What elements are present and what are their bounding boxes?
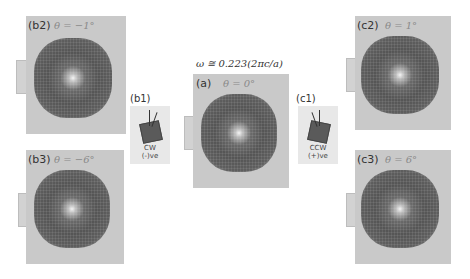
field-panel-c3: (c3) θ = 6°: [355, 150, 451, 264]
field-pattern: [34, 38, 112, 118]
inset-label-c1: (c1): [296, 93, 316, 104]
field-pattern: [201, 94, 277, 172]
rotation-sign: (+)ve: [298, 152, 338, 160]
inset-label-b1: (b1): [130, 93, 151, 104]
panel-label: (b2): [28, 19, 51, 32]
field-pattern: [34, 170, 110, 248]
theta-label: θ = −6°: [54, 154, 95, 165]
rotation-direction: CW: [130, 144, 170, 152]
panel-label: (a): [196, 77, 211, 90]
rotation-inset-c1: CCW (+)ve: [298, 106, 338, 164]
panel-label: (c2): [357, 19, 379, 32]
panel-label: (b3): [28, 153, 51, 166]
field-panel-b2: (b2) θ = −1°: [26, 16, 126, 134]
theta-label: θ = 1°: [385, 20, 417, 31]
field-panel-c2: (c2) θ = 1°: [355, 16, 451, 130]
frequency-label: ω ≅ 0.223(2πc/a): [196, 58, 283, 69]
vertical-arrow-icon: [149, 110, 150, 126]
theta-label: θ = −1°: [54, 20, 95, 31]
field-panel-b3: (b3) θ = −6°: [26, 150, 124, 264]
rotated-square-icon: [139, 120, 163, 144]
field-panel-a: (a) θ = 0°: [193, 74, 289, 188]
vertical-arrow-icon: [319, 110, 320, 126]
field-pattern: [361, 170, 439, 248]
theta-label: θ = 6°: [385, 154, 417, 165]
rotation-sign: (-)ve: [130, 152, 170, 160]
field-pattern: [361, 36, 439, 114]
panel-label: (c3): [357, 153, 379, 166]
rotation-direction: CCW: [298, 144, 338, 152]
rotation-inset-b1: CW (-)ve: [130, 106, 170, 164]
theta-label: θ = 0°: [223, 78, 255, 89]
